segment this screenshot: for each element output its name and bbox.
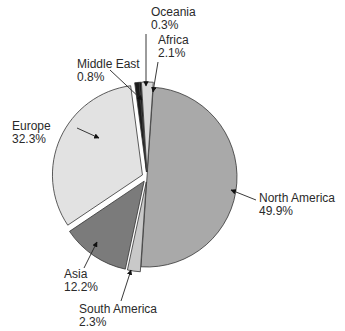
label-oceania: Oceania 0.3% (151, 6, 196, 32)
pie-slice-north-america (141, 87, 237, 267)
label-south-america: South America 2.3% (79, 303, 157, 329)
label-north-america: North America 49.9% (259, 192, 335, 218)
label-asia: Asia 12.2% (64, 268, 98, 294)
label-europe: Europe 32.3% (12, 120, 51, 146)
pie-slices (52, 82, 237, 272)
label-middle-east: Middle East 0.8% (77, 58, 140, 84)
label-africa: Africa 2.1% (158, 34, 189, 60)
leader-south-america (121, 270, 131, 301)
